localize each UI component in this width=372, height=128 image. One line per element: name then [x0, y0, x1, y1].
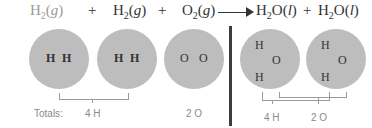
bracket-right-o	[279, 92, 347, 98]
bracket-left-h	[59, 93, 129, 100]
state-text: (l)	[345, 2, 359, 18]
total-right-o: 2 O	[311, 112, 327, 123]
atom-h: H	[130, 51, 139, 66]
state-text: (g)	[129, 2, 147, 18]
reactant-o2: O2(g)	[182, 2, 215, 21]
formula-text: O	[182, 2, 193, 18]
total-left-h: 4 H	[85, 108, 101, 119]
divider-line	[229, 26, 232, 126]
reactant-h2: H2(g)	[113, 2, 146, 21]
formula-text: H	[256, 2, 267, 18]
reaction-arrow-head	[246, 7, 254, 17]
atom-h: H	[321, 70, 330, 85]
formula-text: H	[318, 2, 329, 18]
plus-sign: +	[303, 2, 311, 19]
total-left-o: 2 O	[186, 108, 202, 119]
atom-h: H	[255, 70, 264, 85]
molecule-h2: H H	[29, 29, 89, 89]
atom-o: O	[199, 51, 208, 66]
reactant-h2-faded: H2(g)	[30, 2, 63, 21]
atom-h: H	[321, 38, 330, 53]
formula-text: H	[30, 2, 41, 18]
atom-o: O	[272, 53, 281, 68]
state-text: (l)	[283, 2, 297, 18]
formula-text: O	[272, 2, 283, 18]
molecule-h2: H H	[97, 29, 157, 89]
formula-text: H	[113, 2, 124, 18]
molecule-o2: O O	[164, 29, 224, 89]
totals-label: Totals:	[34, 108, 63, 119]
plus-sign: +	[158, 2, 166, 19]
atom-o: O	[180, 51, 189, 66]
bracket-tick	[92, 99, 93, 103]
product-h2o: H2O(l)	[318, 2, 359, 21]
molecule-h2o: H O H	[306, 29, 366, 89]
atom-h: H	[114, 51, 123, 66]
total-right-h: 4 H	[264, 112, 280, 123]
state-text: (g)	[46, 2, 64, 18]
molecule-h2o: H O H	[240, 29, 300, 89]
bracket-tick	[272, 100, 273, 104]
atom-h: H	[46, 51, 55, 66]
state-text: (g)	[198, 2, 216, 18]
atom-h: H	[255, 38, 264, 53]
bracket-tick	[318, 97, 319, 104]
product-h2o: H2O(l)	[256, 2, 297, 21]
plus-sign: +	[88, 2, 96, 19]
reaction-arrow-shaft	[218, 12, 248, 13]
formula-text: O	[334, 2, 345, 18]
atom-o: O	[338, 53, 347, 68]
atom-h: H	[62, 51, 71, 66]
